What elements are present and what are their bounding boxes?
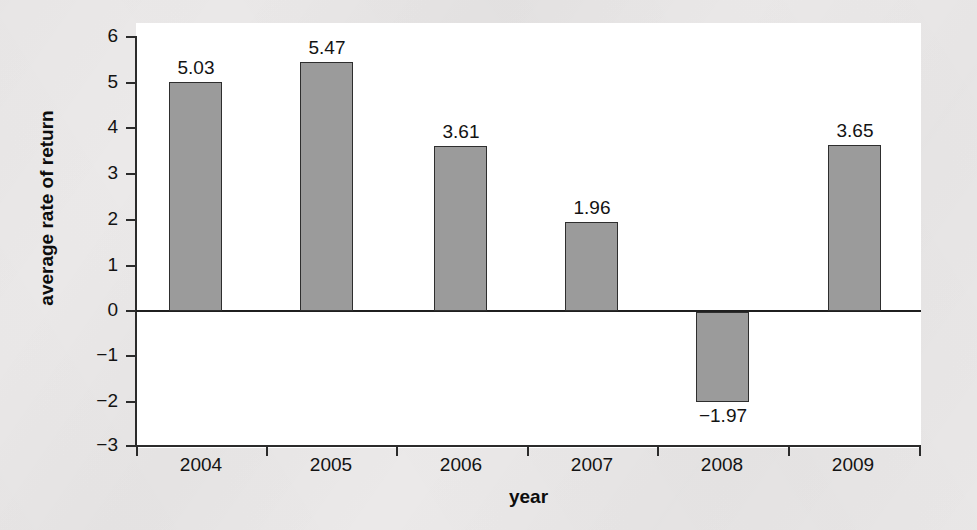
bar-value-2006: 3.61	[401, 122, 521, 141]
x-tick-mark	[919, 447, 921, 456]
y-axis-title: average rate of return	[36, 78, 58, 338]
x-tick-label-2008: 2008	[662, 455, 782, 474]
x-tick-label-2004: 2004	[141, 455, 261, 474]
y-tick-mark	[126, 82, 135, 84]
bar-2004	[169, 82, 222, 311]
y-tick-label: 5	[78, 72, 118, 91]
x-tick-label-2009: 2009	[793, 455, 913, 474]
y-tick-label: −1	[78, 345, 118, 364]
y-tick-mark	[126, 219, 135, 221]
bar-2008	[696, 312, 749, 402]
y-tick-mark	[126, 265, 135, 267]
y-tick-mark	[126, 36, 135, 38]
y-tick-label: −2	[78, 391, 118, 410]
y-tick-label: 4	[78, 117, 118, 136]
zero-baseline	[136, 310, 921, 312]
y-tick-mark	[126, 127, 135, 129]
y-axis-line	[135, 36, 137, 447]
x-tick-label-2006: 2006	[401, 455, 521, 474]
x-tick-mark	[788, 447, 790, 456]
bar-value-2004: 5.03	[136, 58, 256, 77]
y-tick-label: −3	[78, 435, 118, 454]
y-tick-label: 6	[78, 26, 118, 45]
y-tick-mark	[126, 401, 135, 403]
y-tick-label: 1	[78, 255, 118, 274]
x-tick-label-2005: 2005	[271, 455, 391, 474]
bar-2009	[828, 145, 881, 311]
x-tick-mark	[266, 447, 268, 456]
plot-panel	[136, 23, 921, 448]
x-tick-label-2007: 2007	[532, 455, 652, 474]
x-tick-mark	[136, 447, 138, 456]
y-tick-mark	[126, 355, 135, 357]
x-tick-mark	[396, 447, 398, 456]
bar-value-2005: 5.47	[267, 38, 387, 57]
bar-2007	[565, 222, 618, 311]
bar-2006	[434, 146, 487, 311]
y-tick-label: 2	[78, 209, 118, 228]
y-tick-mark	[126, 445, 135, 447]
y-tick-label: 0	[78, 300, 118, 319]
x-tick-mark	[527, 447, 529, 456]
x-axis-title: year	[136, 486, 921, 508]
bar-value-2007: 1.96	[532, 198, 652, 217]
bar-2005	[300, 62, 353, 311]
y-tick-label: 3	[78, 163, 118, 182]
bar-value-2009: 3.65	[795, 121, 915, 140]
x-tick-mark	[657, 447, 659, 456]
figure-page: 6 5 4 3 2 1 0 −1 −2 −3 2004 2005 2006 20…	[0, 0, 977, 530]
bar-value-2008: −1.97	[663, 406, 783, 425]
y-tick-mark	[126, 310, 135, 312]
y-tick-mark	[126, 173, 135, 175]
